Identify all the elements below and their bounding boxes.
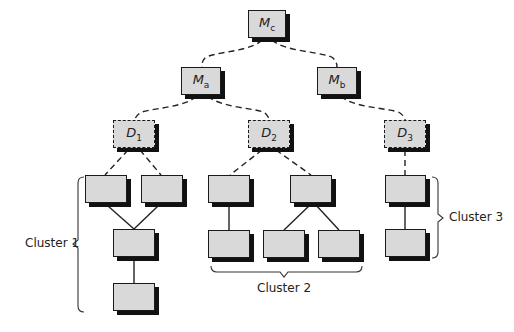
cluster-1-node-a [85,175,127,203]
cluster-3-node-a [385,175,426,203]
cluster-2-node-c [208,230,250,258]
edge-mc-mb [272,40,337,67]
node-mb-label: Mb [329,72,346,90]
node-d3-label: D3 [397,125,413,143]
cluster-1-label: Cluster 1 [25,236,79,250]
node-d3: D3 [384,120,426,148]
cluster-1-node-d [113,283,155,311]
cluster-2-node-e [318,230,360,258]
edge-d1-c1b [140,150,161,175]
cluster-hierarchy-diagram: Mc Ma Mb D1 D2 D3 Cluster 1 Cluster 2 Cl… [0,0,514,332]
edge-c1a-c1c [108,206,134,229]
node-mc: Mc [248,10,286,38]
cluster-2-node-a [208,175,250,203]
edge-c2b-c2e [315,204,339,230]
edge-ma-d1 [135,96,196,120]
cluster-3-brace [432,177,443,258]
node-mc-label: Mc [259,15,275,33]
node-d1-label: D1 [126,125,142,143]
edge-ma-d2 [208,96,269,120]
node-ma-label: Ma [193,72,210,90]
cluster-1-node-c [113,229,155,257]
node-ma: Ma [181,67,221,95]
cluster-3-label: Cluster 3 [449,210,503,224]
cluster-2-node-d [263,230,305,258]
cluster-2-node-b [290,175,332,203]
node-d1: D1 [113,120,155,148]
edge-c1b-c1c [134,206,158,229]
edge-c2b-c2d [284,204,311,230]
cluster-3-node-b [385,229,426,257]
cluster-2-label: Cluster 2 [257,281,311,295]
edge-d2-c2a [230,150,262,175]
node-mb: Mb [317,67,357,95]
cluster-1-node-b [141,175,183,203]
edge-d1-c1a [105,150,128,175]
edge-mc-ma [202,40,262,67]
cluster-2-brace [211,266,362,277]
node-d2-label: D2 [261,125,277,143]
node-d2: D2 [248,120,290,148]
edge-d2-c2b [276,150,311,175]
edge-mb-d3 [341,96,405,120]
